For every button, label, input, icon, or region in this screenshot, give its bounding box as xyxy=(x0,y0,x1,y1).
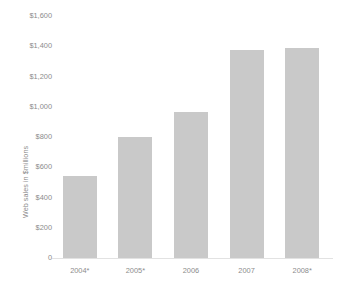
x-axis-tick-label: 2004* xyxy=(52,266,108,275)
y-axis-tick-label: $400 xyxy=(0,194,52,202)
plot-area xyxy=(52,16,330,258)
y-axis-tick-label: $1,200 xyxy=(0,73,52,81)
bar-slot xyxy=(108,16,164,258)
bar[interactable] xyxy=(118,137,152,258)
bar-slot xyxy=(163,16,219,258)
y-axis-tick-label: 0 xyxy=(0,254,52,262)
bar[interactable] xyxy=(174,112,208,258)
bar[interactable] xyxy=(285,48,319,258)
x-axis-baseline xyxy=(52,258,333,259)
x-axis-tick-label: 2007 xyxy=(219,266,275,275)
bar-slot xyxy=(274,16,330,258)
bar-chart: Web sales in $millions $1,600$1,400$1,20… xyxy=(0,0,339,293)
y-axis-tick-label: $200 xyxy=(0,224,52,232)
y-axis-tick-label: $600 xyxy=(0,163,52,171)
x-axis-tick-label: 2008* xyxy=(274,266,330,275)
x-axis-tick-label: 2006 xyxy=(163,266,219,275)
bar[interactable] xyxy=(63,176,97,258)
bar[interactable] xyxy=(230,50,264,258)
y-axis-tick-labels: $1,600$1,400$1,200$1,000$800$600$400$200… xyxy=(0,0,52,293)
bar-slot xyxy=(52,16,108,258)
y-axis-tick-label: $1,000 xyxy=(0,103,52,111)
y-axis-tick-label: $1,400 xyxy=(0,42,52,50)
bar-slot xyxy=(219,16,275,258)
x-axis-tick-labels: 2004*2005*200620072008* xyxy=(52,266,330,280)
y-axis-tick-label: $1,600 xyxy=(0,12,52,20)
x-axis-tick-label: 2005* xyxy=(108,266,164,275)
y-axis-tick-label: $800 xyxy=(0,133,52,141)
bar-series xyxy=(52,16,330,258)
